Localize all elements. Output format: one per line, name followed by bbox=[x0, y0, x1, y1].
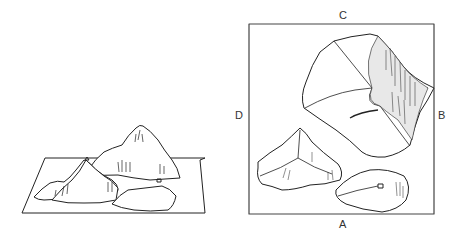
mountain-top-view bbox=[0, 0, 464, 236]
edge-label-left: D bbox=[235, 110, 243, 121]
edge-label-bottom: A bbox=[339, 219, 346, 230]
edge-label-right: B bbox=[438, 110, 445, 121]
edge-label-top: C bbox=[339, 10, 347, 21]
